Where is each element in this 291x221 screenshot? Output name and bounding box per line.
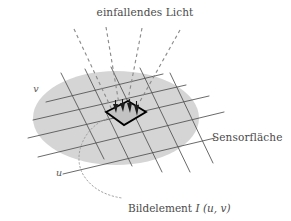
pixel-element-caption: Bildelement I (u, v) (128, 202, 231, 214)
sensor-diagram: einfallendes Licht Sensorfläche v u Bild… (0, 0, 291, 221)
axis-label-v: v (33, 83, 39, 94)
axis-label-u: u (56, 167, 62, 178)
caption-args: (u, v) (203, 202, 231, 214)
figure-root: einfallendes Licht Sensorfläche v u Bild… (0, 0, 291, 221)
caption-prefix: Bildelement (128, 202, 193, 214)
caption-symbol: I (194, 202, 200, 214)
sensor-surface-label: Sensorfläche (212, 131, 282, 143)
incident-light-label: einfallendes Licht (97, 6, 195, 18)
